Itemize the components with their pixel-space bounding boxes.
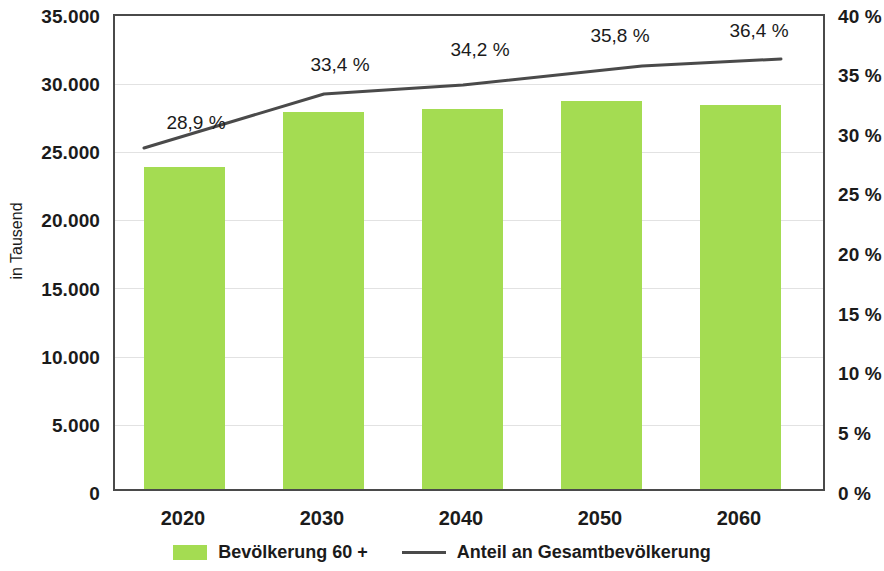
chart-legend: Bevölkerung 60 + Anteil an Gesamtbevölke… <box>0 543 884 561</box>
x-axis-label-2040: 2040 <box>439 508 484 528</box>
data-label-2030: 33,4 % <box>310 55 369 74</box>
y2-axis-tick-5: 5 % <box>838 424 871 443</box>
x-axis-label-2020: 2020 <box>161 508 206 528</box>
percentage-line <box>115 16 827 493</box>
y2-axis-tick-15: 15 % <box>838 305 882 324</box>
y-axis-tick-20000: 20.000 <box>0 211 100 230</box>
chart-container: in Tausend 35.000 30.000 25.000 20.000 1… <box>0 0 884 571</box>
y2-axis-tick-25: 25 % <box>838 185 882 204</box>
data-label-2050: 35,8 % <box>590 26 649 45</box>
x-axis-label-2060: 2060 <box>717 508 762 528</box>
data-label-2020: 28,9 % <box>166 113 225 132</box>
y2-axis-tick-35: 35 % <box>838 66 882 85</box>
y-axis-tick-10000: 10.000 <box>0 348 100 367</box>
y-axis-tick-35000: 35.000 <box>0 7 100 26</box>
y2-axis-tick-10: 10 % <box>838 364 882 383</box>
y-axis-tick-25000: 25.000 <box>0 143 100 162</box>
data-label-2060: 36,4 % <box>729 21 788 40</box>
x-axis-label-2030: 2030 <box>300 508 345 528</box>
legend-swatch-line-icon <box>402 551 446 554</box>
legend-label-bar: Bevölkerung 60 + <box>218 543 368 561</box>
legend-swatch-bar-icon <box>173 545 207 560</box>
y-axis-tick-15000: 15.000 <box>0 280 100 299</box>
legend-item-line: Anteil an Gesamtbevölkerung <box>402 543 711 561</box>
legend-item-bar: Bevölkerung 60 + <box>173 543 368 561</box>
plot-area <box>113 14 825 491</box>
y-axis-tick-30000: 30.000 <box>0 75 100 94</box>
x-axis-label-2050: 2050 <box>578 508 623 528</box>
y-axis-tick-0: 0 <box>0 484 100 503</box>
line-path <box>144 59 781 148</box>
y2-axis-tick-40: 40 % <box>838 7 882 26</box>
y-axis-tick-5000: 5.000 <box>0 416 100 435</box>
data-label-2040: 34,2 % <box>450 40 509 59</box>
legend-label-line: Anteil an Gesamtbevölkerung <box>457 543 711 561</box>
y2-axis-tick-20: 20 % <box>838 245 882 264</box>
y2-axis-tick-30: 30 % <box>838 126 882 145</box>
y2-axis-tick-0: 0 % <box>838 484 871 503</box>
